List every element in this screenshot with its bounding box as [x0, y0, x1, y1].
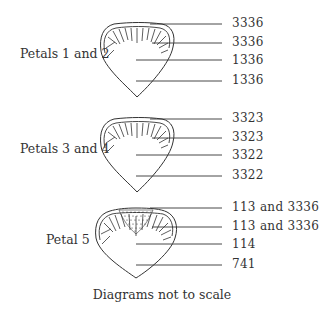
petal-diagram-figure: Petals 1 and 2 Petals 3 and 4 Petal 5 33…: [0, 0, 324, 309]
petal-group-label: Petal 5: [46, 232, 90, 247]
pattern-code: 114: [232, 237, 256, 251]
pattern-code: 3322: [232, 168, 264, 182]
pattern-code: 1336: [232, 73, 264, 87]
petal-1-2-leader-lines: [136, 24, 222, 81]
petal-3-4-leader-lines: [136, 119, 222, 176]
petal-group-label: Petals 3 and 4: [20, 141, 109, 156]
pattern-code: 3336: [232, 16, 264, 30]
pattern-code: 1336: [232, 53, 264, 67]
pattern-code: 113 and 3336: [232, 200, 319, 214]
pattern-code: 113 and 3336: [232, 219, 319, 233]
petal-group-label: Petals 1 and 2: [20, 46, 109, 61]
pattern-code: 3323: [232, 130, 264, 144]
pattern-code: 3322: [232, 148, 264, 162]
figure-caption: Diagrams not to scale: [0, 287, 324, 302]
petal-5-shape: [96, 208, 177, 278]
pattern-code: 3323: [232, 111, 264, 125]
pattern-code: 741: [232, 257, 256, 271]
pattern-code: 3336: [232, 35, 264, 49]
